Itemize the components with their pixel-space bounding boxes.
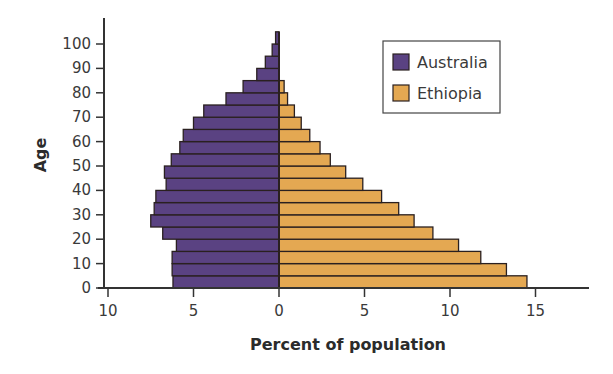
y-axis-title: Age [31, 138, 50, 173]
bar-ethiopia-10-14 [279, 251, 481, 263]
bar-ethiopia-0-4 [279, 276, 527, 288]
bar-australia-40-44 [166, 178, 279, 190]
y-tick-label: 40 [72, 181, 91, 199]
bar-ethiopia-25-29 [279, 215, 414, 227]
bar-ethiopia-55-59 [279, 142, 320, 154]
bar-australia-45-49 [164, 166, 279, 178]
bar-australia-70-74 [204, 105, 279, 117]
legend: Australia Ethiopia [383, 41, 500, 113]
population-pyramid-chart: 0102030405060708090100 105051015 Age Per… [0, 0, 613, 374]
y-axis-ticks: 0102030405060708090100 [62, 35, 104, 297]
bar-australia-85-89 [257, 68, 279, 80]
x-tick-label: 10 [440, 302, 459, 320]
legend-label-australia: Australia [417, 53, 488, 72]
y-tick-label: 50 [72, 157, 91, 175]
bar-australia-10-14 [172, 251, 279, 263]
bar-ethiopia-5-9 [279, 264, 506, 276]
y-tick-label: 10 [72, 255, 91, 273]
x-tick-label: 5 [360, 302, 370, 320]
bar-australia-60-64 [183, 129, 279, 141]
bar-ethiopia-20-24 [279, 227, 433, 239]
bar-ethiopia-40-44 [279, 178, 363, 190]
bar-australia-35-39 [156, 190, 279, 202]
y-tick-label: 30 [72, 206, 91, 224]
bar-ethiopia-50-54 [279, 154, 330, 166]
x-tick-label: 15 [526, 302, 545, 320]
bar-ethiopia-75-79 [279, 93, 288, 105]
y-tick-label: 70 [72, 108, 91, 126]
legend-swatch-ethiopia [393, 85, 409, 101]
bar-ethiopia-45-49 [279, 166, 346, 178]
bar-australia-55-59 [180, 142, 279, 154]
y-tick-label: 90 [72, 59, 91, 77]
bar-ethiopia-30-34 [279, 203, 399, 215]
bar-australia-0-4 [173, 276, 279, 288]
bar-australia-30-34 [154, 203, 279, 215]
bar-ethiopia-65-69 [279, 117, 301, 129]
bar-australia-95-99 [272, 44, 279, 56]
y-tick-label: 0 [81, 279, 91, 297]
x-tick-label: 0 [274, 302, 284, 320]
legend-label-ethiopia: Ethiopia [417, 84, 482, 103]
bar-ethiopia-35-39 [279, 190, 382, 202]
y-tick-label: 80 [72, 84, 91, 102]
y-tick-label: 60 [72, 133, 91, 151]
bar-ethiopia-60-64 [279, 129, 310, 141]
bar-australia-90-94 [265, 56, 279, 68]
bar-australia-65-69 [194, 117, 280, 129]
bar-australia-75-79 [226, 93, 279, 105]
y-tick-label: 100 [62, 35, 91, 53]
bar-australia-50-54 [171, 154, 279, 166]
bar-australia-25-29 [151, 215, 279, 227]
x-axis-title: Percent of population [250, 335, 446, 354]
x-tick-label: 5 [189, 302, 199, 320]
x-axis-ticks: 105051015 [98, 288, 545, 320]
bar-australia-15-19 [176, 239, 279, 251]
bar-ethiopia-70-74 [279, 105, 294, 117]
bar-australia-20-24 [163, 227, 279, 239]
bar-australia-80-84 [243, 81, 279, 93]
legend-swatch-australia [393, 54, 409, 70]
bar-australia-5-9 [172, 264, 279, 276]
x-tick-label: 10 [98, 302, 117, 320]
y-tick-label: 20 [72, 230, 91, 248]
bar-ethiopia-15-19 [279, 239, 459, 251]
